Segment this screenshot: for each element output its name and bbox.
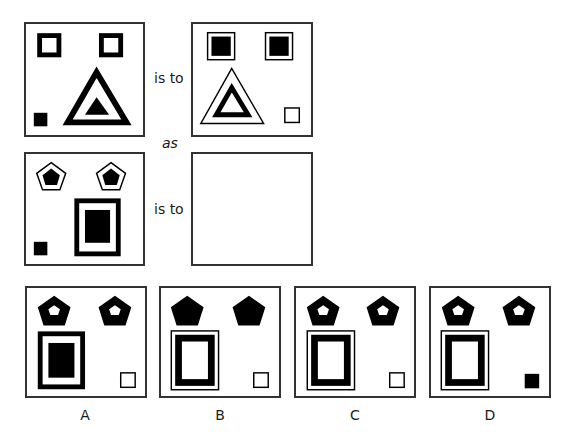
option-b-panel[interactable] (159, 286, 281, 398)
option-d-letter: D (475, 407, 505, 423)
row2-source-panel (24, 152, 145, 266)
solid-black-pentagon-icon (171, 296, 204, 326)
option-c-figure (296, 288, 414, 396)
solid-inner-pentagon-icon (102, 168, 119, 184)
answer-placeholder-panel (191, 152, 313, 266)
row1-target-panel (191, 22, 313, 137)
row1-source-figure (26, 24, 143, 135)
thick-outline-triangle-icon (68, 72, 127, 122)
thick-frame-rectangle-icon (449, 338, 482, 382)
option-a-panel[interactable] (25, 286, 147, 398)
option-b-figure (161, 288, 279, 396)
thick-frame-rectangle-icon (315, 338, 348, 382)
small-solid-square-icon (34, 113, 48, 127)
thick-frame-rectangle-icon (179, 338, 212, 382)
small-hollow-square-icon (390, 373, 404, 387)
small-solid-square-icon (34, 242, 48, 256)
thick-hollow-square-icon (101, 36, 120, 55)
small-hollow-square-icon (254, 373, 268, 387)
solid-inner-rectangle-icon (85, 210, 110, 243)
row1-target-figure (193, 24, 311, 135)
small-solid-square-icon (525, 374, 539, 388)
small-hollow-square-icon (285, 108, 299, 122)
solid-inner-rectangle-icon (48, 343, 74, 378)
thick-inner-triangle-icon (216, 88, 248, 115)
option-c-letter: C (340, 407, 370, 423)
option-b-letter: B (205, 407, 235, 423)
option-c-panel[interactable] (294, 286, 416, 398)
thick-hollow-square-icon (40, 36, 59, 55)
is-to-label-row1: is to (154, 70, 184, 86)
solid-inner-pentagon-icon (43, 168, 60, 184)
option-d-panel[interactable] (429, 286, 551, 398)
solid-inner-square-icon (269, 37, 288, 56)
solid-inner-triangle-icon (85, 97, 109, 114)
solid-black-pentagon-icon (233, 296, 266, 326)
option-a-letter: A (70, 407, 100, 423)
option-a-figure (27, 288, 145, 396)
is-to-label-row2: is to (154, 201, 184, 217)
option-d-figure (431, 288, 549, 396)
row1-source-panel (24, 22, 145, 137)
solid-inner-square-icon (211, 37, 230, 56)
small-hollow-square-icon (121, 373, 135, 387)
row2-source-figure (26, 154, 143, 264)
as-label: as (162, 135, 178, 151)
